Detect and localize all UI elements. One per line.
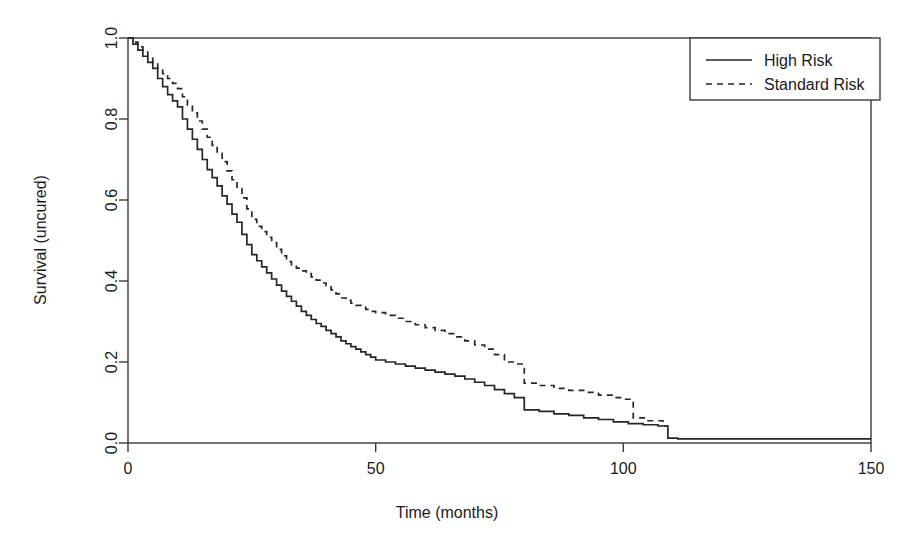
y-tick-label: 0.6 [103, 189, 120, 211]
x-tick-label: 150 [858, 460, 885, 477]
chart-canvas: 0.00.20.40.60.81.0 050100150 Time (month… [0, 0, 915, 558]
legend-label-high-risk: High Risk [764, 52, 833, 69]
y-tick-label: 0.0 [103, 432, 120, 454]
survival-plot-figure: 0.00.20.40.60.81.0 050100150 Time (month… [0, 0, 915, 558]
curve-standard-risk [128, 38, 668, 426]
x-tick-label: 0 [124, 460, 133, 477]
y-axis-ticks: 0.00.20.40.60.81.0 [103, 27, 129, 454]
legend: High Risk Standard Risk [690, 38, 880, 100]
y-tick-label: 0.2 [103, 351, 120, 373]
y-tick-label: 1.0 [103, 27, 120, 49]
x-axis-label: Time (months) [396, 504, 499, 521]
x-tick-label: 50 [367, 460, 385, 477]
x-axis-ticks: 050100150 [124, 443, 885, 477]
x-tick-label: 100 [610, 460, 637, 477]
y-axis-label: Survival (uncured) [32, 175, 49, 305]
y-tick-label: 0.4 [103, 270, 120, 292]
y-tick-label: 0.8 [103, 108, 120, 130]
legend-label-standard-risk: Standard Risk [764, 76, 865, 93]
